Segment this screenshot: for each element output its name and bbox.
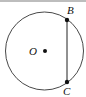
circle-diagram: O B C bbox=[0, 0, 86, 97]
center-point bbox=[43, 49, 47, 53]
label-c: C bbox=[63, 85, 71, 97]
label-b: B bbox=[67, 4, 74, 16]
point-c bbox=[65, 80, 69, 84]
label-o: O bbox=[29, 45, 37, 57]
point-b bbox=[65, 18, 69, 22]
